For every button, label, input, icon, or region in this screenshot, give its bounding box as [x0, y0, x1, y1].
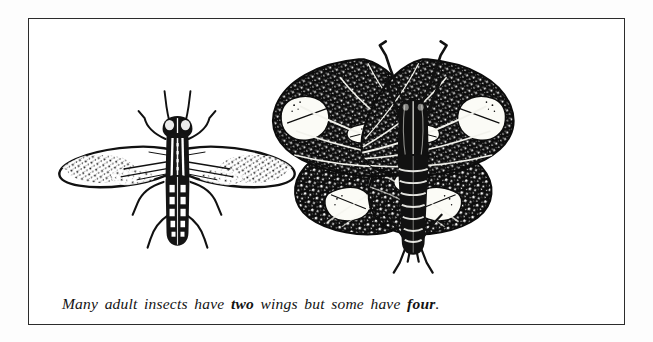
caption-segment-1: Many adult insects have — [62, 295, 231, 312]
caption-text: Many adult insects have two wings but so… — [29, 295, 440, 313]
caption-emphasis-four: four — [407, 295, 435, 312]
caption-segment-2: wings but some have — [254, 295, 407, 312]
caption-segment-3: . — [435, 295, 439, 312]
fly-illustration — [57, 91, 297, 247]
illustration-plate — [29, 19, 624, 281]
moth-illustration — [273, 41, 514, 272]
figure-caption: Many adult insects have two wings but so… — [29, 283, 624, 325]
figure-frame: Many adult insects have two wings but so… — [28, 18, 625, 325]
moth-abdomen — [398, 154, 429, 255]
insect-illustration-svg — [29, 19, 624, 281]
caption-emphasis-two: two — [231, 295, 254, 312]
fly-abdomen — [166, 175, 190, 246]
